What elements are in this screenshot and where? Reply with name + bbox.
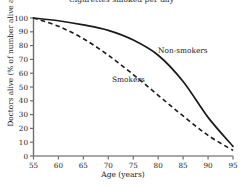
series-label-non-smokers: Non-smokers xyxy=(158,46,208,55)
x-tick-label: 55 xyxy=(29,161,39,170)
x-tick-label: 90 xyxy=(203,161,213,170)
y-tick-label: 0 xyxy=(23,152,28,161)
y-tick-label: 50 xyxy=(19,83,29,92)
x-tick-label: 95 xyxy=(228,161,238,170)
y-tick-label: 10 xyxy=(19,138,29,147)
x-tick-label: 75 xyxy=(129,161,139,170)
y-tick-label: 60 xyxy=(19,69,29,78)
y-tick-label: 20 xyxy=(19,124,29,133)
series-line-smokers xyxy=(34,18,234,150)
y-tick-label: 40 xyxy=(19,96,29,105)
x-tick-label: 85 xyxy=(179,161,189,170)
y-tick-label: 90 xyxy=(19,27,29,36)
x-tick-label: 65 xyxy=(79,161,89,170)
plot-area: 0102030405060708090100 55606570758085909… xyxy=(0,0,243,186)
y-tick-label: 100 xyxy=(14,14,28,23)
y-tick-label: 80 xyxy=(19,41,29,50)
y-tick-label: 70 xyxy=(19,55,29,64)
x-tick-label: 60 xyxy=(54,161,64,170)
x-tick-label: 70 xyxy=(104,161,114,170)
y-tick-label: 30 xyxy=(19,110,29,119)
y-axis-ticks: 0102030405060708090100 xyxy=(14,14,33,161)
x-axis-ticks: 556065707580859095 xyxy=(29,156,238,170)
series-label-smokers: Smokers xyxy=(112,75,145,84)
x-tick-label: 80 xyxy=(154,161,164,170)
chart-container: Cigarettes smoked per day Doctors alive … xyxy=(0,0,243,186)
